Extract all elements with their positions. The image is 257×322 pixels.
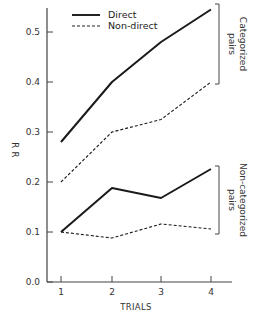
axes: 0.00.10.20.30.40.5 1234 TRIALS R R [10,8,232,312]
y-tick-label: 0.2 [26,177,40,187]
bracket-non-categorized: Non-categorized pairs [215,163,248,237]
y-tick-label: 0.0 [26,277,41,287]
y-tick-label: 0.4 [26,77,41,87]
x-tick-label: 4 [208,287,214,297]
y-tick-label: 0.1 [26,227,40,237]
bracket-line-icon [215,4,219,84]
bracket-label-noncategorized-line2: pairs [227,189,237,211]
legend-item-direct: Direct [72,9,137,20]
bracket-label-categorized-line2: pairs [227,33,237,55]
y-tick-label: 0.5 [26,27,40,37]
legend: Direct Non-direct [72,9,158,31]
series-line [61,169,211,232]
x-tick-label: 2 [109,287,115,297]
series-line [61,82,211,182]
x-tick-label: 1 [58,287,64,297]
x-tick-label: 3 [158,287,164,297]
legend-label-direct: Direct [108,9,137,20]
x-ticks: 1234 [58,276,214,297]
series-layer [61,10,211,239]
x-axis-title: TRIALS [119,302,151,312]
legend-item-nondirect: Non-direct [72,20,158,31]
legend-label-nondirect: Non-direct [108,20,158,31]
bracket-label-noncategorized-line1: Non-categorized [238,163,248,237]
y-ticks: 0.00.10.20.30.40.5 [26,27,53,287]
bracket-categorized: Categorized pairs [215,4,248,84]
y-tick-label: 0.3 [26,127,40,137]
bracket-label-categorized-line1: Categorized [238,17,248,71]
line-chart: 0.00.10.20.30.40.5 1234 TRIALS R R Direc… [0,0,257,322]
bracket-line-icon [215,166,219,234]
series-line [61,224,211,238]
y-axis-title: R R [10,142,20,157]
